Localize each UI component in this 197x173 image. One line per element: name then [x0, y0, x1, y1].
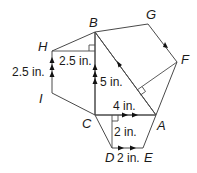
vertex-label-h: H [38, 39, 48, 54]
parallel-arrows-hi [50, 57, 55, 77]
vertex-label-d: D [105, 150, 114, 165]
vertex-label-i: I [39, 91, 43, 106]
parallel-arrows-bc [93, 64, 98, 84]
geometry-diagram: B G H F I C A D E 2.5 in. 2.5 in. 5 in. … [0, 0, 197, 173]
vertex-label-c: C [82, 116, 92, 131]
measure-de: 2 in. [117, 151, 140, 165]
right-angle-mark-h [89, 45, 95, 51]
vertex-label-a: A [156, 118, 166, 133]
right-angle-mark-f [141, 87, 146, 96]
vertex-label-g: G [146, 7, 156, 22]
trapezoid-bhic [52, 32, 95, 115]
parallel-arrow-ba [117, 61, 122, 68]
measure-hi: 2.5 in. [12, 65, 45, 79]
measure-ca: 4 in. [113, 99, 136, 113]
vertex-label-b: B [89, 15, 98, 30]
right-angle-mark-d [112, 115, 118, 121]
measure-bc: 5 in. [100, 75, 123, 89]
vertex-label-f: F [181, 52, 190, 67]
quadrilateral-bgfa [95, 24, 177, 115]
measure-h-height: 2.5 in. [59, 54, 92, 68]
vertex-label-e: E [144, 150, 153, 165]
measure-bottom-height: 2 in. [114, 125, 137, 139]
